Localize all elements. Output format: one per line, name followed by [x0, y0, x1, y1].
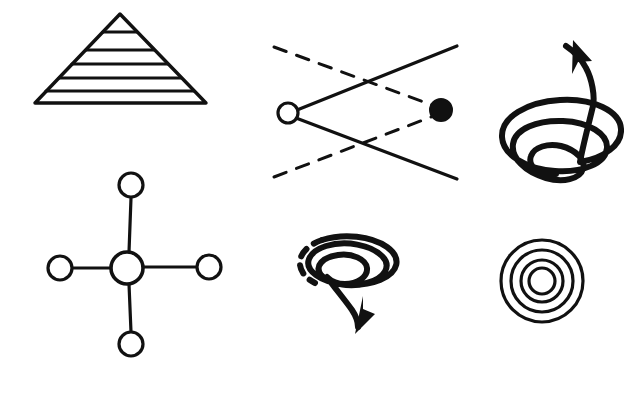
satellite-node-bottom[interactable] [119, 332, 143, 356]
crossing-paths-diagram[interactable] [274, 46, 457, 179]
concentric-ring-4 [529, 268, 555, 294]
diagram-canvas [0, 0, 624, 398]
figure-layer [0, 0, 624, 398]
upward-helix-path [502, 46, 621, 180]
concentric-ring-3 [521, 260, 563, 302]
hollow-node[interactable] [278, 103, 298, 123]
layered-pyramid-diagram[interactable] [35, 14, 206, 103]
hub-node[interactable] [111, 252, 143, 284]
dashed-edge-lower [274, 117, 431, 177]
satellite-node-top[interactable] [119, 173, 143, 197]
hub-and-spoke-diagram[interactable] [48, 173, 221, 356]
filled-node[interactable] [430, 99, 452, 121]
upward-helix-diagram[interactable] [502, 40, 621, 180]
satellite-node-right[interactable] [197, 255, 221, 279]
downward-helix-path [308, 236, 396, 327]
spoke-bottom [129, 284, 131, 332]
solid-edge-upper [297, 46, 457, 110]
dashed-edge-upper [274, 47, 432, 105]
satellite-node-left[interactable] [48, 256, 72, 280]
solid-edge-lower [296, 118, 457, 179]
concentric-ring-1 [501, 240, 583, 322]
spoke-top [129, 198, 131, 252]
downward-helix-diagram[interactable] [300, 236, 397, 334]
concentric-circles-diagram[interactable] [501, 240, 583, 322]
